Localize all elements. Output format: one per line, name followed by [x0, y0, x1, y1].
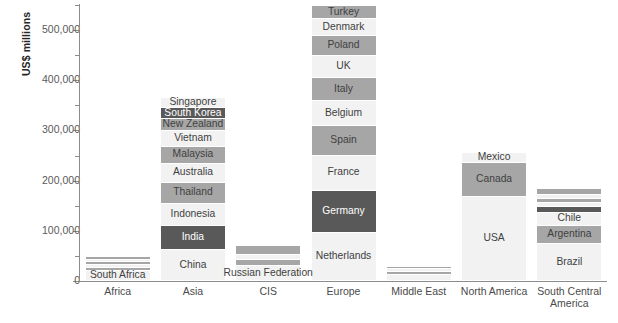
segment-label: Canada — [476, 174, 512, 185]
bar-segment-russian-federation[interactable]: Russian Federation — [235, 266, 301, 281]
bar-segment-netherlands[interactable]: Netherlands — [311, 233, 377, 281]
bar-segment[interactable] — [85, 260, 151, 263]
segment-label: Netherlands — [316, 251, 372, 262]
bar-segment[interactable] — [386, 275, 452, 281]
bar-middle-east[interactable] — [386, 267, 452, 281]
segment-label-south-korea: South Korea — [113, 108, 273, 119]
bar-segment[interactable] — [85, 265, 151, 268]
segment-label: France — [327, 167, 359, 178]
bar-segment[interactable] — [536, 199, 602, 204]
bar-segment[interactable] — [386, 272, 452, 275]
segment-label: Chile — [558, 213, 581, 224]
segment-label: Spain — [330, 135, 356, 146]
bar-segment[interactable] — [386, 267, 452, 270]
stacked-bar-chart: US$ millions 0100,000200,000300,000400,0… — [0, 0, 618, 323]
bar-segment[interactable] — [235, 246, 301, 255]
bar-segment-uk[interactable]: UK — [311, 56, 377, 78]
x-axis-line — [79, 281, 607, 282]
bar-segment-turkey[interactable]: Turkey — [311, 6, 377, 19]
bar-segment-denmark[interactable]: Denmark — [311, 19, 377, 36]
bar-cis[interactable]: Russian Federation — [235, 246, 301, 281]
y-tick-label: 400,000 — [24, 73, 80, 85]
segment-label: Turkey — [328, 7, 359, 18]
segment-label: China — [179, 260, 206, 271]
bar-segment-thailand[interactable]: Thailand — [160, 183, 226, 204]
bar-north-america[interactable]: USACanadaMexico — [461, 153, 527, 281]
y-tick-label: 100,000 — [24, 224, 80, 236]
bar-segment-india[interactable]: India — [160, 226, 226, 250]
bar-segment-argentina[interactable]: Argentina — [536, 226, 602, 244]
y-axis: 0100,000200,000300,000400,000500,000 — [0, 0, 80, 290]
x-axis-label-cis: CIS — [231, 285, 306, 297]
y-tick-label: 200,000 — [24, 174, 80, 186]
bar-segment-usa[interactable]: USA — [461, 197, 527, 281]
x-axis-label-europe: Europe — [306, 285, 381, 297]
bar-segment[interactable] — [85, 262, 151, 265]
segment-label: Argentina — [547, 229, 591, 240]
segment-label-mexico: Mexico — [414, 152, 574, 163]
segment-label: Indonesia — [171, 209, 216, 220]
segment-label: Russian Federation — [224, 268, 313, 279]
segment-label: Germany — [322, 206, 364, 217]
bar-segment-italy[interactable]: Italy — [311, 78, 377, 101]
bar-segment-chile[interactable]: Chile — [536, 213, 602, 226]
bar-segment-indonesia[interactable]: Indonesia — [160, 204, 226, 226]
segment-label-singapore: Singapore — [113, 97, 273, 108]
bar-segment-brazil[interactable]: Brazil — [536, 244, 602, 281]
segment-label: India — [182, 232, 204, 243]
segment-label: USA — [483, 233, 504, 244]
bar-segment-vietnam[interactable]: Vietnam — [160, 131, 226, 147]
bar-segment[interactable] — [536, 195, 602, 199]
segment-label: Thailand — [173, 187, 213, 198]
x-axis-label-middle-east: Middle East — [381, 285, 456, 297]
bar-europe[interactable]: NetherlandsGermanyFranceSpainBelgiumItal… — [311, 6, 377, 281]
x-axis-label-africa: Africa — [80, 285, 155, 297]
bar-segment[interactable] — [235, 255, 301, 260]
segment-label: Poland — [327, 40, 359, 51]
bar-segment-germany[interactable]: Germany — [311, 191, 377, 233]
segment-label: Australia — [173, 167, 213, 178]
segment-label-south-africa: South Africa — [38, 270, 198, 281]
segment-label: Italy — [334, 84, 353, 95]
y-tick-label: 300,000 — [24, 123, 80, 135]
segment-label: Belgium — [325, 108, 362, 119]
bar-segment[interactable] — [536, 203, 602, 207]
bar-segment[interactable] — [536, 189, 602, 195]
x-axis-label-north-america: North America — [456, 285, 531, 297]
bar-segment-canada[interactable]: Canada — [461, 163, 527, 197]
segment-label-new-zealand: New Zealand — [113, 119, 273, 130]
bar-segment-spain[interactable]: Spain — [311, 126, 377, 155]
bar-segment-poland[interactable]: Poland — [311, 36, 377, 56]
segment-label: Brazil — [556, 257, 582, 268]
y-tick-label: 500,000 — [24, 23, 80, 35]
bar-segment[interactable] — [235, 260, 301, 266]
bar-segment[interactable] — [85, 257, 151, 260]
segment-label: UK — [336, 61, 350, 72]
bar-segment-malaysia[interactable]: Malaysia — [160, 147, 226, 164]
bar-segment-belgium[interactable]: Belgium — [311, 101, 377, 126]
bar-south-central-america[interactable]: BrazilArgentinaChile — [536, 189, 602, 281]
bar-segment-australia[interactable]: Australia — [160, 164, 226, 183]
x-axis-label-south-central-america: South Central America — [532, 285, 607, 309]
segment-label: Denmark — [323, 22, 365, 33]
x-axis-label-asia: Asia — [155, 285, 230, 297]
segment-label: Vietnam — [174, 133, 212, 144]
bar-segment-france[interactable]: France — [311, 156, 377, 191]
bar-segment[interactable] — [386, 269, 452, 272]
segment-label: Malaysia — [173, 149, 214, 160]
